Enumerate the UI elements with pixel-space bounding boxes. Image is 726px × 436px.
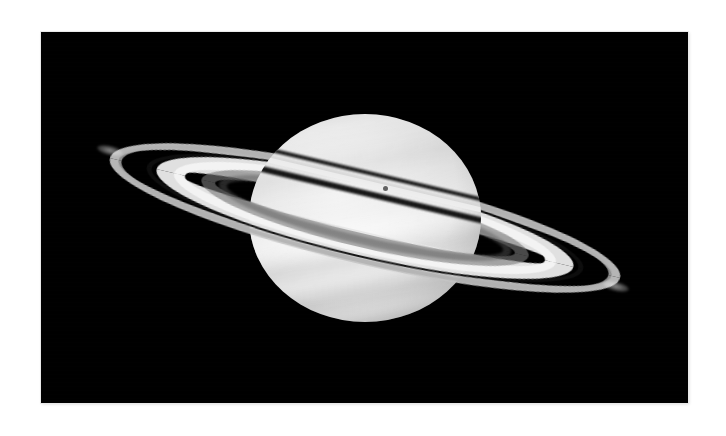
page-root: Grayscale telescope photograph of the pl… [0, 0, 726, 436]
astronomy-photo-frame [41, 32, 688, 403]
saturn-system [41, 32, 688, 403]
image-description: Grayscale telescope photograph of the pl… [0, 0, 1, 1]
ring-front-half [41, 32, 688, 403]
ring-plane-front [41, 32, 688, 403]
